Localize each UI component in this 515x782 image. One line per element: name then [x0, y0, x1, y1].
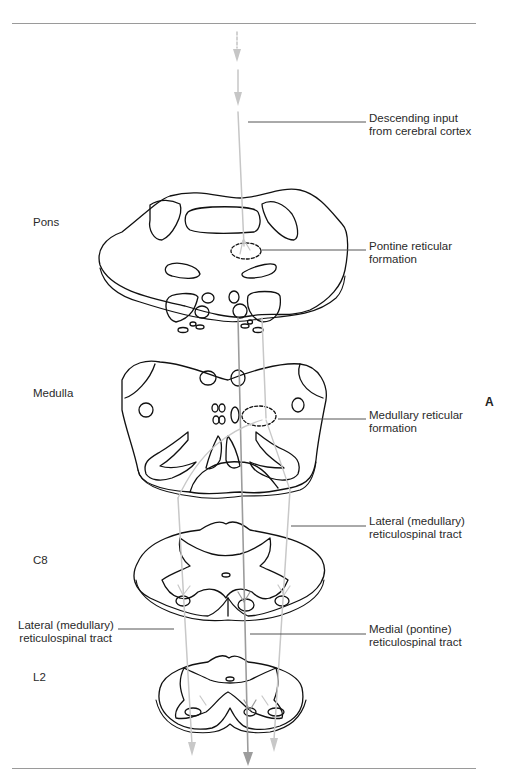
callout-line2: formation — [369, 422, 463, 435]
pons-section — [99, 189, 348, 332]
callout-line1: Lateral (medullary) — [18, 619, 112, 632]
panel-letter: A — [485, 395, 494, 409]
callout-line1: Lateral (medullary) — [369, 515, 465, 528]
callout-descending-input: Descending input from cerebral cortex — [369, 112, 471, 138]
callout-line2: reticulospinal tract — [369, 636, 462, 649]
l2-section — [156, 656, 306, 733]
level-label-medulla: Medulla — [33, 387, 73, 400]
callout-line2: from cerebral cortex — [369, 125, 471, 138]
callout-line1: Medial (pontine) — [369, 623, 462, 636]
level-label-pons: Pons — [33, 216, 59, 229]
callout-line2: formation — [369, 253, 452, 266]
level-label-l2: L2 — [33, 671, 46, 684]
callout-line1: Descending input — [369, 112, 471, 125]
callout-lateral-tract-left: Lateral (medullary) reticulospinal tract — [18, 619, 112, 645]
medulla-section — [122, 361, 326, 498]
callout-line1: Medullary reticular — [369, 409, 463, 422]
callout-line2: reticulospinal tract — [369, 528, 465, 541]
callout-medullary-reticular-formation: Medullary reticular formation — [369, 409, 463, 435]
c8-section — [134, 522, 325, 621]
callout-line1: Pontine reticular — [369, 240, 452, 253]
callout-lateral-tract-right: Lateral (medullary) reticulospinal tract — [369, 515, 465, 541]
level-label-c8: C8 — [33, 554, 48, 567]
callout-pontine-reticular-formation: Pontine reticular formation — [369, 240, 452, 266]
callout-medial-tract: Medial (pontine) reticulospinal tract — [369, 623, 462, 649]
callout-line2: reticulospinal tract — [18, 632, 112, 645]
